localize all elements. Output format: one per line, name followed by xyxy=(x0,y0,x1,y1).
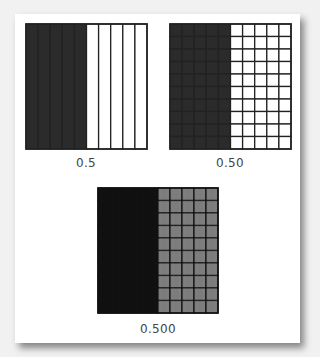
shaded-cell xyxy=(194,62,206,75)
shaded-cell xyxy=(194,24,206,37)
shaded-cell xyxy=(218,49,230,62)
shaded-cell xyxy=(170,49,182,62)
shaded-cell xyxy=(74,24,86,149)
tenths-label: 0.5 xyxy=(46,156,126,170)
unshaded-cell xyxy=(255,87,267,100)
unshaded-cell xyxy=(279,124,291,137)
shaded-cell xyxy=(26,24,38,149)
unshaded-cell xyxy=(279,49,291,62)
shaded-cell xyxy=(50,24,62,149)
unshaded-cell xyxy=(123,24,135,149)
unshaded-cell xyxy=(255,49,267,62)
unshaded-cell xyxy=(135,24,147,149)
unshaded-cell xyxy=(279,99,291,112)
unshaded-cell xyxy=(279,62,291,75)
unshaded-cell xyxy=(231,74,243,87)
shaded-cell xyxy=(206,49,218,62)
unshaded-cell xyxy=(243,124,255,137)
shaded-cell xyxy=(218,99,230,112)
unshaded-cell xyxy=(279,37,291,50)
unshaded-cell xyxy=(231,62,243,75)
shaded-cell xyxy=(206,137,218,150)
unshaded-cell xyxy=(267,49,279,62)
shaded-cell xyxy=(206,74,218,87)
shaded-cell xyxy=(182,74,194,87)
shaded-cell xyxy=(170,124,182,137)
shaded-cell xyxy=(194,137,206,150)
unshaded-cell xyxy=(231,137,243,150)
shaded-cell xyxy=(206,87,218,100)
unshaded-cell xyxy=(243,87,255,100)
unshaded-cell xyxy=(267,87,279,100)
shaded-cell xyxy=(170,112,182,125)
shaded-cell xyxy=(170,37,182,50)
shaded-cell xyxy=(218,74,230,87)
unshaded-cell xyxy=(279,24,291,37)
unshaded-cell xyxy=(231,49,243,62)
unshaded-cell xyxy=(267,62,279,75)
shaded-cell xyxy=(194,49,206,62)
unshaded-cell xyxy=(255,37,267,50)
unshaded-cell xyxy=(243,74,255,87)
shaded-cell xyxy=(182,87,194,100)
unshaded-cell xyxy=(255,74,267,87)
shaded-cell xyxy=(218,62,230,75)
unshaded-cell xyxy=(111,24,123,149)
shaded-cell xyxy=(194,37,206,50)
shaded-cell xyxy=(62,24,74,149)
unshaded-cell xyxy=(243,99,255,112)
unshaded-cell xyxy=(279,112,291,125)
shaded-cell xyxy=(38,24,50,149)
shaded-cell xyxy=(206,112,218,125)
shaded-cell xyxy=(206,99,218,112)
shaded-cell xyxy=(206,62,218,75)
unshaded-cell xyxy=(267,112,279,125)
shaded-cell xyxy=(182,99,194,112)
shaded-cell xyxy=(182,137,194,150)
shaded-cell xyxy=(194,87,206,100)
shaded-cell xyxy=(182,124,194,137)
shaded-cell xyxy=(194,112,206,125)
shaded-cell xyxy=(170,99,182,112)
hundredths-model xyxy=(169,23,292,150)
shaded-cell xyxy=(218,37,230,50)
unshaded-cell xyxy=(243,112,255,125)
unshaded-cell xyxy=(243,24,255,37)
unshaded-cell xyxy=(231,112,243,125)
unshaded-cell xyxy=(99,24,111,149)
unshaded-cell xyxy=(243,49,255,62)
shaded-cell xyxy=(170,62,182,75)
unshaded-cell xyxy=(267,99,279,112)
shaded-cell xyxy=(218,124,230,137)
unshaded-cell xyxy=(231,99,243,112)
shaded-cell xyxy=(182,112,194,125)
unshaded-cell xyxy=(243,37,255,50)
unshaded-cell xyxy=(255,99,267,112)
shaded-cell xyxy=(194,124,206,137)
unshaded-cell xyxy=(279,74,291,87)
thousandths-model xyxy=(97,187,219,314)
unshaded-cell xyxy=(267,24,279,37)
thousandths-label: 0.500 xyxy=(118,322,198,336)
shaded-cell xyxy=(170,74,182,87)
unshaded-cell xyxy=(267,37,279,50)
unshaded-cell xyxy=(231,24,243,37)
shaded-cell xyxy=(170,87,182,100)
shaded-cell xyxy=(194,74,206,87)
unshaded-cell xyxy=(87,24,99,149)
unshaded-cell xyxy=(279,137,291,150)
unshaded-cell xyxy=(231,124,243,137)
shaded-cell xyxy=(218,137,230,150)
unshaded-cell xyxy=(267,74,279,87)
unshaded-cell xyxy=(255,137,267,150)
shaded-cell xyxy=(218,112,230,125)
shaded-cell xyxy=(182,24,194,37)
unshaded-cell xyxy=(255,112,267,125)
unshaded-cell xyxy=(243,62,255,75)
unshaded-cell xyxy=(267,137,279,150)
shaded-cell xyxy=(206,37,218,50)
shaded-cell xyxy=(182,37,194,50)
unshaded-cell xyxy=(243,137,255,150)
unshaded-cell xyxy=(255,24,267,37)
shaded-cell xyxy=(194,99,206,112)
